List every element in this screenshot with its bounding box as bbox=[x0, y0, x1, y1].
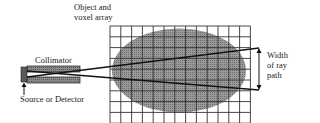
object-ellipse bbox=[112, 29, 246, 113]
object-label-line1: Object and bbox=[74, 2, 112, 12]
source-detector-block bbox=[21, 67, 27, 82]
width-label-line1: Width bbox=[267, 50, 288, 60]
width-label-line3: path bbox=[267, 70, 288, 80]
width-of-ray-path-label: Width of ray path bbox=[267, 50, 288, 80]
source-detector-label: Source or Detector bbox=[20, 94, 84, 104]
width-label-line2: of ray bbox=[267, 60, 288, 70]
object-voxel-label: Object and voxel array bbox=[74, 2, 112, 22]
object-label-line2: voxel array bbox=[74, 12, 112, 22]
collimator-lower-bar bbox=[27, 77, 80, 83]
collimator-label: Collimator bbox=[35, 55, 72, 65]
width-double-arrow bbox=[257, 48, 262, 90]
